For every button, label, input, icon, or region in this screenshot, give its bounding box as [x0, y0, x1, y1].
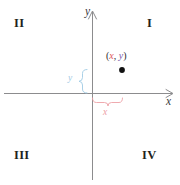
quadrant-label-iii: III: [14, 149, 30, 162]
x-axis-label: x: [166, 96, 171, 108]
plotted-point-dot: [119, 67, 125, 73]
x-measure-label: x: [103, 108, 107, 118]
coord-comma: ,: [114, 50, 117, 61]
point-coordinate-label: (x, y): [106, 51, 127, 61]
coordinate-plane-figure: II I III IV y x (x, y) y x: [0, 0, 180, 185]
close-paren: ): [123, 50, 126, 61]
y-axis-label: y: [85, 6, 90, 18]
quadrant-label-ii: II: [14, 17, 24, 30]
y-measure-label: y: [68, 74, 72, 84]
quadrant-label-i: I: [147, 17, 152, 30]
quadrant-label-iv: IV: [142, 149, 157, 162]
